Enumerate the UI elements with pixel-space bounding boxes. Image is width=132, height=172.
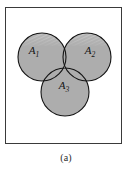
venn-diagram: A1 A2 A3 (0, 0, 132, 172)
figure-caption: (a) (0, 152, 132, 163)
set-label-A2-subscript: 2 (91, 50, 95, 59)
set-label-A3-subscript: 3 (64, 85, 69, 94)
set-label-A1-subscript: 1 (35, 50, 39, 59)
figure-container: A1 A2 A3 (a) (0, 0, 132, 172)
